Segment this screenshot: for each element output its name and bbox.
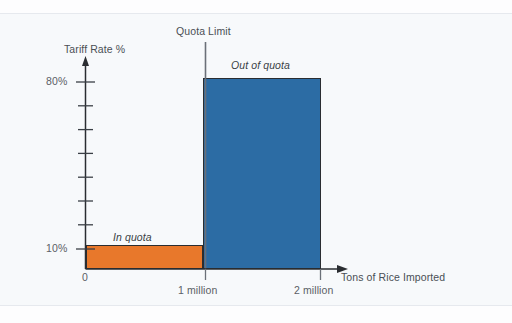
in-quota-label: In quota [113, 232, 152, 244]
x-axis-tick-label-1-million: 1 million [178, 285, 217, 297]
y-axis-arrowhead [82, 56, 89, 66]
tariff-rate-quota-chart: Tariff Rate % 80% 10% 0 1 million 2 mill… [0, 0, 512, 323]
x-axis-tick-label-2-million: 2 million [294, 285, 333, 297]
x-axis-tick-label-origin: 0 [82, 272, 88, 284]
quota-limit-label: Quota Limit [176, 26, 231, 38]
scanned-page: Tariff Rate % 80% 10% 0 1 million 2 mill… [0, 0, 512, 323]
out-of-quota-label: Out of quota [231, 60, 290, 72]
x-tick-marks [206, 269, 321, 280]
y-axis-title: Tariff Rate % [64, 44, 125, 56]
y-axis-tick-label-10: 10% [46, 243, 67, 255]
y-axis-tick-label-80: 80% [46, 76, 67, 88]
x-axis-title: Tons of Rice Imported [341, 272, 445, 284]
